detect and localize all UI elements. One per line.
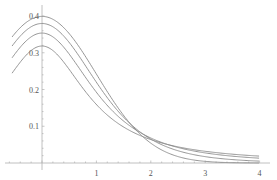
tick-labels: 12340.10.20.30.4	[29, 12, 262, 178]
density-curve	[12, 33, 259, 158]
axes	[5, 5, 270, 170]
x-tick-label: 1	[94, 169, 98, 178]
y-tick-label: 0.3	[29, 49, 39, 58]
x-tick-label: 2	[149, 169, 153, 178]
curves	[12, 16, 259, 163]
density-curve	[12, 24, 259, 162]
x-tick-label: 4	[258, 169, 262, 178]
density-curve	[12, 46, 259, 156]
y-tick-label: 0.4	[29, 12, 39, 21]
x-tick-label: 3	[203, 169, 207, 178]
y-tick-label: 0.1	[29, 122, 39, 131]
density-curve	[12, 16, 259, 163]
y-tick-label: 0.2	[29, 86, 39, 95]
density-chart: 12340.10.20.30.4	[0, 0, 277, 180]
plot-area: 12340.10.20.30.4	[0, 0, 277, 180]
